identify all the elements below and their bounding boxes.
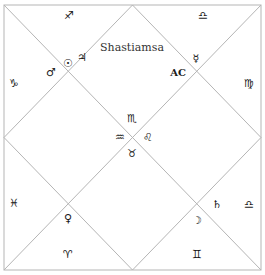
moon-icon: ☽ [192, 215, 202, 226]
jupiter-icon: ♃ [77, 52, 87, 63]
mercury-icon: ☿ [193, 53, 200, 64]
venus-icon: ♀ [64, 213, 72, 224]
sun-icon: ☉ [63, 58, 73, 69]
libra-icon: ♎ [244, 199, 254, 210]
pisces-icon: ♓ [9, 198, 19, 209]
gemini-icon: ♊ [192, 249, 202, 260]
aquarius-icon: ♒ [115, 132, 125, 143]
libra-icon: ♎ [198, 10, 208, 21]
scorpio-icon: ♏ [127, 113, 137, 124]
capricorn-icon: ♑ [9, 78, 19, 89]
ascendant-label: AC [170, 67, 186, 78]
aries-icon: ♈ [63, 249, 73, 260]
taurus-icon: ♉ [127, 148, 137, 159]
saturn-icon: ♄ [212, 199, 222, 210]
virgo-icon: ♍ [244, 78, 254, 89]
chart-title: Shastiamsa [100, 41, 164, 54]
mars-icon: ♂ [46, 67, 56, 78]
sagittarius-icon: ♐ [64, 10, 74, 21]
leo-icon: ♌ [143, 132, 153, 143]
north-indian-chart: Shastiamsa AC ♐ ♎ ♑ ♍ ♏ ♒ ♌ ♉ ♓ ♎ ♈ ♊ ☉ … [0, 0, 265, 275]
